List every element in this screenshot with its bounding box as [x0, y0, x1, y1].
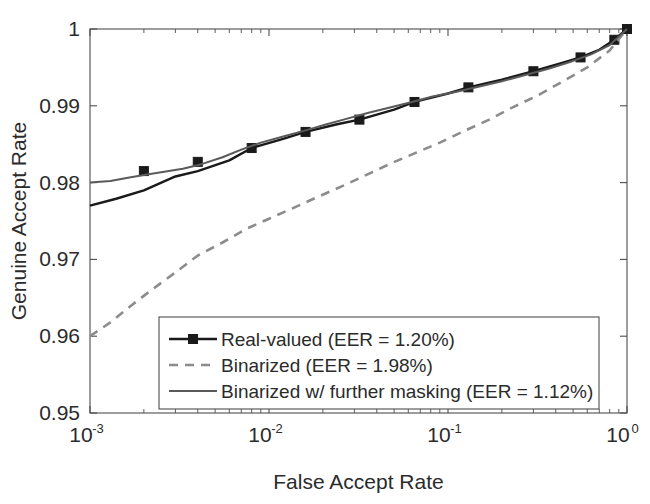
- y-tick-label: 0.95: [39, 401, 80, 424]
- y-tick-label: 1: [68, 17, 80, 40]
- svg-text:-1: -1: [450, 421, 462, 436]
- y-axis-title: Genuine Accept Rate: [7, 122, 30, 320]
- legend-swatch-marker: [189, 335, 198, 344]
- y-tick-label: 0.99: [39, 94, 80, 117]
- svg-text:10: 10: [606, 423, 629, 446]
- roc-chart-svg: 10-310-210-1100 0.950.960.970.980.991 Fa…: [0, 0, 650, 504]
- svg-text:10: 10: [248, 423, 271, 446]
- legend-label: Binarized (EER = 1.98%): [221, 355, 433, 376]
- x-axis-title: False Accept Rate: [273, 470, 443, 493]
- chart-legend: Real-valued (EER = 1.20%)Binarized (EER …: [159, 317, 599, 409]
- legend-label: Binarized w/ further masking (EER = 1.12…: [221, 381, 593, 402]
- legend-label: Real-valued (EER = 1.20%): [221, 329, 455, 350]
- svg-text:-2: -2: [271, 421, 283, 436]
- y-tick-label: 0.96: [39, 324, 80, 347]
- svg-text:10: 10: [427, 423, 450, 446]
- svg-text:0: 0: [631, 421, 638, 436]
- roc-chart-figure: 10-310-210-1100 0.950.960.970.980.991 Fa…: [0, 0, 650, 504]
- y-tick-label: 0.98: [39, 171, 80, 194]
- y-tick-label: 0.97: [39, 247, 80, 270]
- legend-entry-2[interactable]: Binarized w/ further masking (EER = 1.12…: [169, 381, 593, 402]
- svg-text:10: 10: [69, 423, 92, 446]
- svg-text:-3: -3: [92, 421, 104, 436]
